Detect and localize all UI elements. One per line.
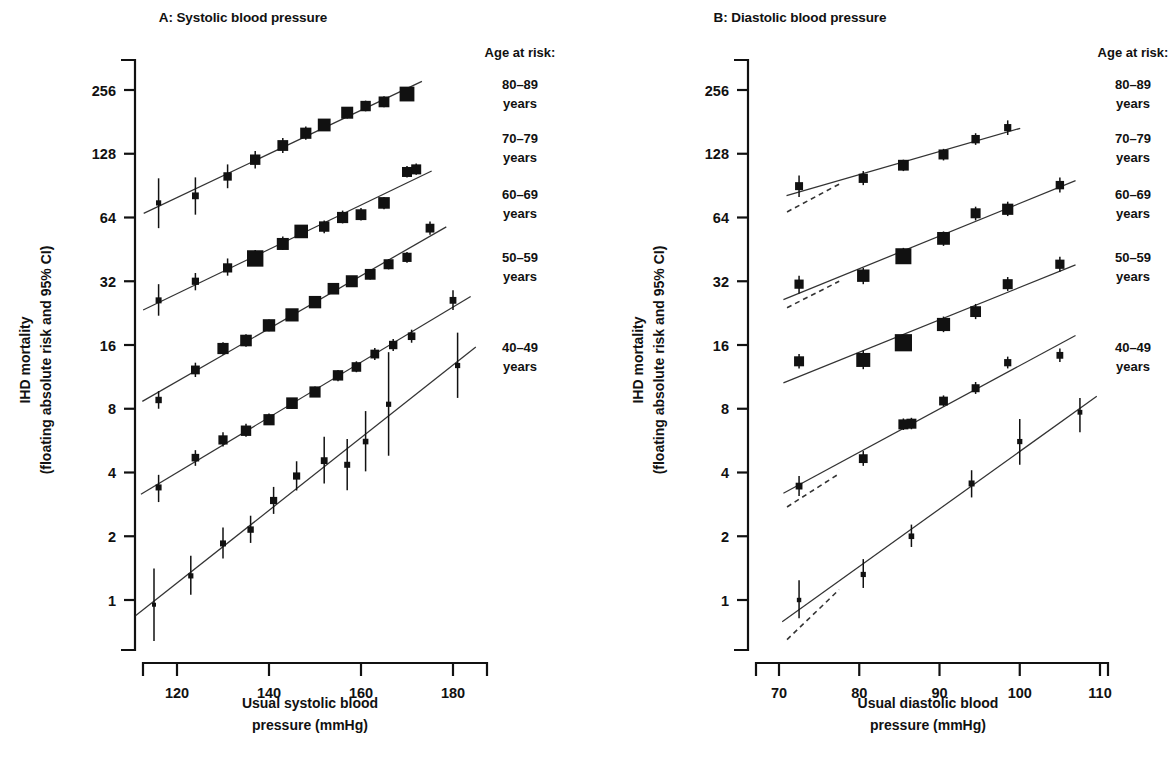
data-point-marker xyxy=(797,598,801,602)
data-point-marker xyxy=(341,107,353,119)
data-point-marker xyxy=(217,343,228,354)
data-point-marker xyxy=(277,238,289,250)
x-axis-title-A-line2: pressure (mmHg) xyxy=(252,717,368,733)
y-tick-label-B-1: 2 xyxy=(721,529,729,545)
legend-item-B-0-age: 80–89 xyxy=(1115,77,1151,92)
data-point-marker xyxy=(156,297,162,303)
legend-heading-B: Age at risk: xyxy=(1098,45,1169,60)
series-B-1 xyxy=(783,177,1075,307)
data-point-marker xyxy=(895,248,911,264)
y-tick-label-B-5: 32 xyxy=(713,274,729,290)
data-point-marker xyxy=(240,335,252,347)
legend-item-A-4-age: 40–49 xyxy=(502,340,538,355)
x-tick-label-B-0: 70 xyxy=(771,685,787,701)
data-point-marker xyxy=(356,209,367,220)
data-point-marker xyxy=(293,472,300,479)
data-point-marker xyxy=(402,167,412,177)
series-A-4 xyxy=(136,333,476,641)
legend-item-A-0-unit: years xyxy=(503,96,537,111)
x-axis-title-B-line1: Usual diastolic blood xyxy=(858,695,999,711)
y-axis-line-A xyxy=(121,60,135,650)
y-tick-label-B-2: 4 xyxy=(721,465,729,481)
data-point-marker xyxy=(937,318,950,331)
data-point-marker xyxy=(939,149,949,159)
x-tick-label-B-3: 100 xyxy=(1008,685,1032,701)
data-point-marker xyxy=(241,426,251,436)
y-tick-label-A-5: 32 xyxy=(100,274,116,290)
data-point-marker xyxy=(861,572,866,577)
figure-container: A: Systolic blood pressure12481632641282… xyxy=(0,0,1176,774)
legend-item-A-1-age: 70–79 xyxy=(502,131,538,146)
data-point-marker xyxy=(247,250,263,266)
fit-line-B-1 xyxy=(783,181,1075,300)
legend-item-B-3-age: 50–59 xyxy=(1115,250,1151,265)
legend-heading-A: Age at risk: xyxy=(485,45,556,60)
data-point-marker xyxy=(250,154,260,164)
y-tick-label-A-3: 8 xyxy=(108,401,116,417)
legend-item-B-2-age: 60–69 xyxy=(1115,187,1151,202)
data-point-marker xyxy=(939,397,948,406)
data-point-marker xyxy=(363,439,369,445)
data-point-marker xyxy=(408,332,416,340)
data-point-marker xyxy=(455,363,460,368)
y-axis-title-b-line2: (floating absolute risk and 95% CI) xyxy=(651,246,667,475)
data-point-marker xyxy=(223,263,232,272)
y-axis-line-B xyxy=(734,60,748,650)
legend-item-B-3-unit: years xyxy=(1116,269,1150,284)
data-point-marker xyxy=(1056,181,1064,189)
data-point-marker xyxy=(1003,279,1013,289)
fit-line-B-3 xyxy=(783,335,1075,493)
panel-A: A: Systolic blood pressure12481632641282… xyxy=(92,10,556,733)
series-A-1 xyxy=(143,164,432,316)
data-point-marker xyxy=(192,454,200,462)
y-tick-label-A-0: 1 xyxy=(108,593,116,609)
data-point-marker xyxy=(188,573,193,578)
data-point-marker xyxy=(386,402,391,407)
legend-item-B-1-unit: years xyxy=(1116,150,1150,165)
data-point-marker xyxy=(796,483,803,490)
data-point-marker xyxy=(300,128,311,139)
data-point-marker xyxy=(263,319,275,331)
data-point-marker xyxy=(384,259,394,269)
data-point-marker xyxy=(969,480,975,486)
data-point-marker xyxy=(344,462,350,468)
y-tick-label-B-0: 1 xyxy=(721,593,729,609)
data-point-marker xyxy=(270,497,277,504)
data-point-marker xyxy=(378,197,390,209)
data-point-marker xyxy=(794,280,803,289)
data-point-marker xyxy=(286,397,298,409)
data-point-marker xyxy=(1056,352,1063,359)
data-point-marker xyxy=(318,119,331,132)
data-point-marker xyxy=(970,306,981,317)
legend-item-B-0-unit: years xyxy=(1116,96,1150,111)
data-point-marker xyxy=(402,253,411,262)
x-axis-line-B xyxy=(756,663,1108,676)
legend-item-A-2-age: 60–69 xyxy=(502,187,538,202)
x-tick-label-B-4: 110 xyxy=(1088,685,1111,701)
data-point-marker xyxy=(857,269,869,281)
y-axis-title-group-b: IHD mortality(floating absolute risk and… xyxy=(630,246,667,475)
data-point-marker xyxy=(1017,439,1022,444)
data-point-marker xyxy=(346,275,358,287)
data-point-marker xyxy=(191,366,200,375)
legend-A: Age at risk:80–89years70–79years60–69yea… xyxy=(485,45,556,374)
y-tick-label-B-3: 8 xyxy=(721,401,729,417)
legend-item-A-1-unit: years xyxy=(503,150,537,165)
panel-B: B: Diastolic blood pressure1248163264128… xyxy=(705,10,1169,733)
fit-line-A-3 xyxy=(141,296,471,494)
data-point-marker xyxy=(365,269,376,280)
legend-item-B-4-unit: years xyxy=(1116,359,1150,374)
y-axis-title-line2: (floating absolute risk and 95% CI) xyxy=(38,246,54,475)
data-point-marker xyxy=(218,435,227,444)
data-point-marker xyxy=(1055,260,1064,269)
fit-line-B-4 xyxy=(782,396,1097,621)
data-point-marker xyxy=(1004,359,1011,366)
data-point-marker xyxy=(370,350,379,359)
data-point-marker xyxy=(450,297,457,304)
data-point-marker xyxy=(285,308,298,321)
series-B-2 xyxy=(783,257,1075,383)
data-point-marker xyxy=(352,362,362,372)
legend-B: Age at risk:80–89years70–79years60–69yea… xyxy=(1098,45,1169,374)
data-point-marker xyxy=(389,341,397,349)
extrapolation-line-B-3 xyxy=(787,474,839,507)
